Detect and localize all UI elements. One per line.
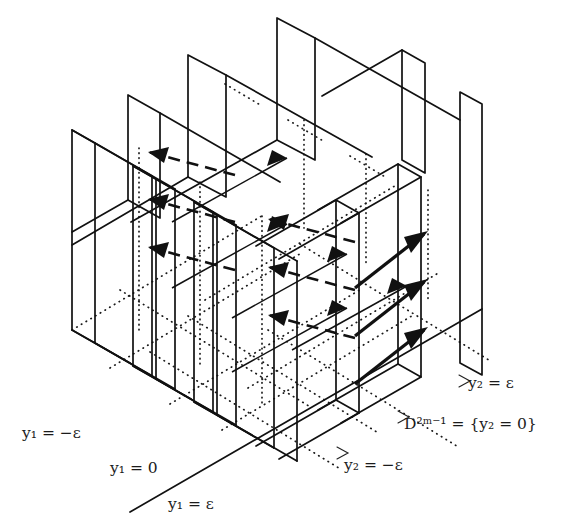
label-y2-neg-eps: y₂ = −ε — [343, 456, 403, 474]
arrow-right-thin-2 — [172, 216, 287, 288]
arrow-right-bold-1 — [355, 231, 428, 288]
base-lines-group — [95, 309, 482, 512]
label-y1-pos-eps: y₁ = ε — [167, 495, 214, 513]
label-y2-pos-eps: y₂ = ε — [467, 374, 514, 392]
arrow-left-3 — [148, 242, 235, 270]
labels-group: y₁ = −ε y₁ = 0 y₁ = ε y₂ = −ε D²ᵐ⁻¹ = {y… — [21, 374, 537, 513]
arrow-right-thin-4 — [232, 300, 347, 372]
plane-y1-back-upper — [131, 18, 460, 222]
plane-y1-zero[interactable] — [133, 166, 236, 425]
figure-canvas: y₁ = −ε y₁ = 0 y₁ = ε y₂ = −ε D²ᵐ⁻¹ = {y… — [0, 0, 562, 532]
plane-y2-pos-eps — [460, 92, 482, 375]
label-y1-neg-eps: y₁ = −ε — [21, 424, 81, 442]
hyperplane-diagram: y₁ = −ε y₁ = 0 y₁ = ε y₂ = −ε D²ᵐ⁻¹ = {y… — [0, 0, 562, 532]
arrow-left-5 — [268, 262, 355, 290]
arrows-leftward-group — [148, 147, 355, 338]
plane-y2-zero[interactable] — [318, 164, 421, 423]
plane-y1-top-small — [72, 95, 280, 232]
plane-y1-pos-eps[interactable] — [194, 202, 297, 461]
plane-y2-upper-a — [322, 50, 425, 173]
label-d2m1-y2-zero: D²ᵐ⁻¹ = {y₂ = 0} — [404, 415, 537, 433]
arrow-left-6 — [268, 310, 355, 338]
label-y1-zero: y₁ = 0 — [109, 459, 158, 477]
